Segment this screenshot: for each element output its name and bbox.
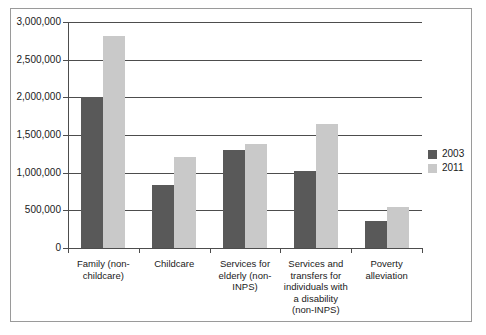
legend-item-2011[interactable]: 2011 <box>428 161 472 175</box>
x-tick-mark <box>68 248 69 253</box>
category-label-line: (non-INPS) <box>280 304 351 316</box>
legend-swatch-icon <box>428 150 437 159</box>
x-tick-mark <box>351 248 352 253</box>
bar-2011-2 <box>245 144 267 248</box>
plot-area <box>68 22 422 248</box>
bar-2003-2 <box>223 150 245 248</box>
category-label-line: Poverty <box>351 258 422 270</box>
category-label-2: Services forelderly (non-INPS) <box>210 258 281 293</box>
legend-label: 2003 <box>442 149 464 159</box>
category-label-line: transfers for <box>280 270 351 282</box>
y-tick-label: 2,500,000 <box>17 55 62 65</box>
x-axis-line <box>68 248 423 249</box>
x-tick-mark <box>210 248 211 253</box>
x-tick-mark <box>139 248 140 253</box>
bar-2003-0 <box>81 97 103 248</box>
y-tick-label: 2,000,000 <box>17 92 62 102</box>
category-label-0: Family (non-childcare) <box>68 258 139 281</box>
y-tick-label: 3,000,000 <box>17 17 62 27</box>
category-label-line: Services for <box>210 258 281 270</box>
category-label-line: individuals with <box>280 281 351 293</box>
category-label-1: Childcare <box>139 258 210 270</box>
bar-2003-4 <box>365 221 387 248</box>
legend-item-2003[interactable]: 2003 <box>428 147 472 161</box>
y-axis-labels: 3,000,0002,500,0002,000,0001,500,0001,00… <box>0 0 61 335</box>
y-tick-label: 0 <box>55 243 61 253</box>
x-tick-mark <box>280 248 281 253</box>
category-label-4: Povertyalleviation <box>351 258 422 281</box>
category-label-line: INPS) <box>210 281 281 293</box>
legend-swatch-icon <box>428 164 437 173</box>
category-label-line: Services and <box>280 258 351 270</box>
bar-2003-1 <box>152 185 174 248</box>
bar-2011-1 <box>174 157 196 248</box>
bar-2003-3 <box>294 171 316 248</box>
bar-2011-0 <box>103 36 125 248</box>
category-label-line: childcare) <box>68 270 139 282</box>
legend-label: 2011 <box>442 163 464 173</box>
chart-figure: 3,000,0002,500,0002,000,0001,500,0001,00… <box>0 0 486 335</box>
bar-2011-3 <box>316 124 338 248</box>
chart-legend: 20032011 <box>428 147 472 175</box>
x-tick-mark <box>422 248 423 253</box>
category-label-line: a disability <box>280 293 351 305</box>
y-tick-label: 1,500,000 <box>17 130 62 140</box>
category-label-line: Childcare <box>139 258 210 270</box>
bar-2011-4 <box>387 207 409 248</box>
category-label-line: alleviation <box>351 270 422 282</box>
y-tick-label: 1,000,000 <box>17 168 62 178</box>
gridline <box>68 22 422 23</box>
category-label-line: elderly (non- <box>210 270 281 282</box>
category-label-line: Family (non- <box>68 258 139 270</box>
category-label-3: Services andtransfers forindividuals wit… <box>280 258 351 316</box>
y-tick-label: 500,000 <box>25 205 61 215</box>
